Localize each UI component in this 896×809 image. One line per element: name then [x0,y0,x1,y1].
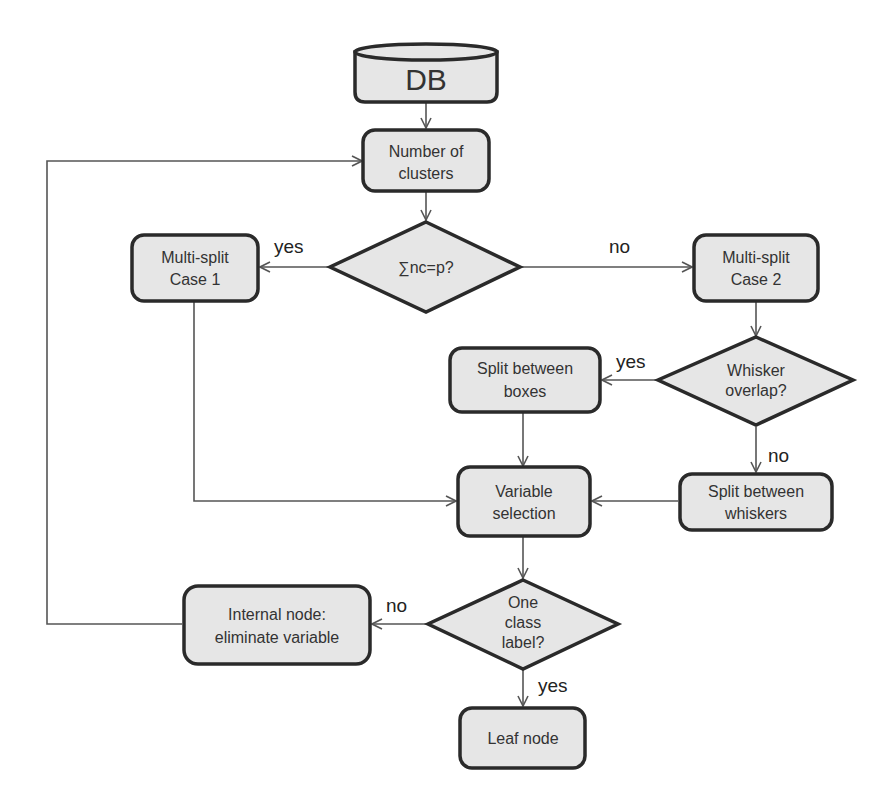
node-db: DB [355,44,497,102]
edge-multi1-to-varsel [194,301,456,501]
svg-text:boxes: boxes [504,383,547,400]
svg-text:Whisker: Whisker [727,362,785,379]
svg-text:∑nc=p?: ∑nc=p? [398,259,454,277]
node-multi-split-case-2: Multi-split Case 2 [694,235,818,301]
svg-text:Number of: Number of [389,143,464,160]
svg-text:Multi-split: Multi-split [161,249,229,266]
node-split-between-whiskers: Split between whiskers [680,474,832,530]
node-decision-one-class-label: One class label? [428,580,618,669]
node-decision-whisker-overlap: Whisker overlap? [658,337,853,425]
svg-text:Split between: Split between [477,360,573,377]
node-internal-eliminate-variable: Internal node: eliminate variable [184,586,370,664]
svg-text:class: class [505,614,541,631]
svg-text:Case 1: Case 1 [170,271,221,288]
edge-feedback-loop [47,161,362,624]
node-number-of-clusters: Number of clusters [363,130,489,191]
node-decision-sum: ∑nc=p? [330,222,520,312]
svg-text:Leaf node: Leaf node [487,730,558,747]
svg-text:label?: label? [502,634,545,651]
label-class-yes: yes [538,675,568,696]
node-split-between-boxes: Split between boxes [450,348,600,412]
svg-text:Internal node:: Internal node: [228,606,326,623]
label-whisker-yes: yes [616,351,646,372]
node-leaf: Leaf node [460,708,585,768]
svg-text:One: One [508,594,538,611]
svg-text:Split between: Split between [708,483,804,500]
label-whisker-no: no [768,445,789,466]
label-sum-yes: yes [274,236,304,257]
svg-text:eliminate variable: eliminate variable [215,629,340,646]
flowchart-canvas: yes no yes no no yes DB Number of cluste… [0,0,896,809]
svg-text:clusters: clusters [398,165,453,182]
svg-text:overlap?: overlap? [725,382,786,399]
svg-text:Multi-split: Multi-split [722,249,790,266]
label-sum-no: no [609,236,630,257]
svg-text:Variable: Variable [495,483,553,500]
label-class-no: no [386,595,407,616]
svg-text:whiskers: whiskers [724,505,787,522]
node-variable-selection: Variable selection [458,467,590,536]
db-label: DB [405,63,447,96]
svg-text:selection: selection [492,505,555,522]
node-multi-split-case-1: Multi-split Case 1 [132,235,258,301]
svg-text:Case 2: Case 2 [731,271,782,288]
